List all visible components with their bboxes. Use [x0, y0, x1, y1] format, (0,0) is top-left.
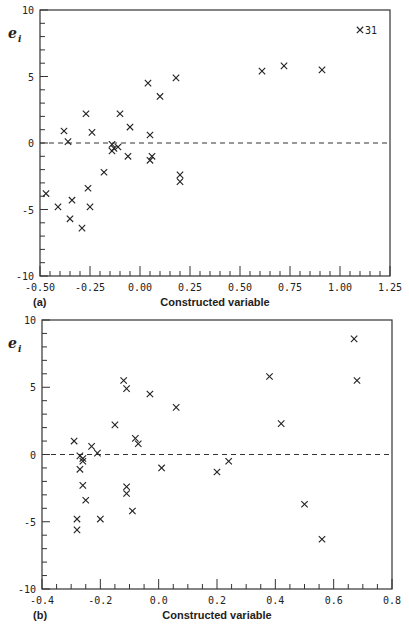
x-tick-label: -0.4: [30, 595, 54, 606]
scatter-plot-b: -10-50510-0.4-0.20.00.20.40.60.8eiConstr…: [0, 315, 409, 630]
y-tick-label: 10: [24, 315, 36, 326]
data-point-x-marker: [278, 420, 284, 426]
data-point-x-marker: [145, 80, 151, 86]
x-axis-label: Constructed variable: [162, 609, 271, 621]
x-tick-label: -0.50: [25, 282, 55, 293]
data-point-x-marker: [147, 132, 153, 138]
chart-panel-a: -10-50510-0.50-0.250.000.250.500.751.001…: [0, 0, 409, 315]
x-tick-label: 0.00: [128, 282, 152, 293]
data-point-x-marker: [69, 197, 75, 203]
data-point-x-marker: [177, 172, 183, 178]
y-axis-label-subscript: i: [18, 34, 22, 44]
y-tick-label: 10: [22, 5, 34, 16]
data-point-x-marker: [94, 450, 100, 456]
data-point-x-marker: [127, 124, 133, 130]
x-tick-label: 0.50: [228, 282, 252, 293]
data-point-x-marker: [158, 465, 164, 471]
data-point-x-marker: [173, 404, 179, 410]
x-axis-label: Constructed variable: [160, 296, 269, 308]
y-axis-label: e: [8, 25, 17, 41]
data-point-x-marker: [281, 63, 287, 69]
data-point-x-marker: [109, 148, 115, 154]
x-tick-label: 1.25: [378, 282, 402, 293]
y-tick-label: 5: [28, 72, 34, 83]
data-point-x-marker: [97, 516, 103, 522]
data-point-x-marker: [112, 422, 118, 428]
data-point-x-marker: [157, 93, 163, 99]
data-point-x-marker: [55, 204, 61, 210]
y-tick-label: 0: [30, 450, 36, 461]
scatter-plot-a: -10-50510-0.50-0.250.000.250.500.751.001…: [0, 0, 409, 315]
data-point-x-marker: [65, 138, 71, 144]
chart-panel-b: -10-50510-0.4-0.20.00.20.40.60.8eiConstr…: [0, 315, 409, 630]
data-point-x-marker: [214, 469, 220, 475]
data-point-x-marker: [351, 336, 357, 342]
data-point-x-marker: [125, 153, 131, 159]
x-tick-label: 0.0: [150, 595, 168, 606]
y-axis-label: e: [8, 335, 17, 351]
data-point-x-marker: [61, 128, 67, 134]
data-point-x-marker: [123, 385, 129, 391]
data-point-x-marker: [117, 111, 123, 117]
y-tick-label: -10: [16, 271, 34, 282]
data-point-x-marker: [259, 68, 265, 74]
x-tick-label: 0.6: [325, 595, 343, 606]
data-point-x-marker: [79, 225, 85, 231]
data-point-x-marker: [101, 169, 107, 175]
x-tick-label: 0.25: [178, 282, 202, 293]
x-tick-label: 0.75: [278, 282, 302, 293]
data-point-x-marker: [83, 497, 89, 503]
data-point-x-marker: [120, 377, 126, 383]
x-tick-label: -0.25: [75, 282, 105, 293]
point-annotation: 31: [365, 25, 377, 36]
data-point-x-marker: [87, 204, 93, 210]
data-point-x-marker: [88, 443, 94, 449]
data-point-x-marker: [80, 482, 86, 488]
data-point-x-marker: [319, 67, 325, 73]
y-tick-label: 0: [28, 138, 34, 149]
data-point-x-marker: [74, 527, 80, 533]
data-point-x-marker: [123, 490, 129, 496]
data-point-x-marker: [77, 466, 83, 472]
y-axis-label-subscript: i: [18, 344, 22, 354]
panel-tag: (a): [33, 296, 47, 308]
y-tick-label: 5: [30, 382, 36, 393]
x-tick-label: -0.2: [88, 595, 112, 606]
panel-tag: (b): [33, 609, 47, 621]
x-tick-label: 0.8: [383, 595, 401, 606]
y-tick-label: -5: [24, 517, 36, 528]
y-tick-label: -5: [22, 205, 34, 216]
x-tick-label: 0.4: [266, 595, 284, 606]
data-point-x-marker: [147, 391, 153, 397]
x-tick-label: 0.2: [208, 595, 226, 606]
data-point-x-marker: [74, 516, 80, 522]
data-point-x-marker: [85, 185, 91, 191]
data-point-x-marker: [266, 373, 272, 379]
data-point-x-marker: [225, 458, 231, 464]
data-point-x-marker: [89, 129, 95, 135]
data-point-x-marker: [83, 111, 89, 117]
data-point-x-marker: [129, 508, 135, 514]
data-point-x-marker: [71, 438, 77, 444]
data-point-x-marker: [123, 484, 129, 490]
data-point-x-marker: [177, 178, 183, 184]
data-point-x-marker: [357, 27, 363, 33]
data-point-x-marker: [301, 501, 307, 507]
data-point-x-marker: [354, 377, 360, 383]
data-point-x-marker: [67, 216, 73, 222]
x-tick-label: 1.00: [328, 282, 352, 293]
data-point-x-marker: [43, 190, 49, 196]
data-point-x-marker: [173, 75, 179, 81]
data-point-x-marker: [319, 536, 325, 542]
y-tick-label: -10: [18, 584, 36, 595]
